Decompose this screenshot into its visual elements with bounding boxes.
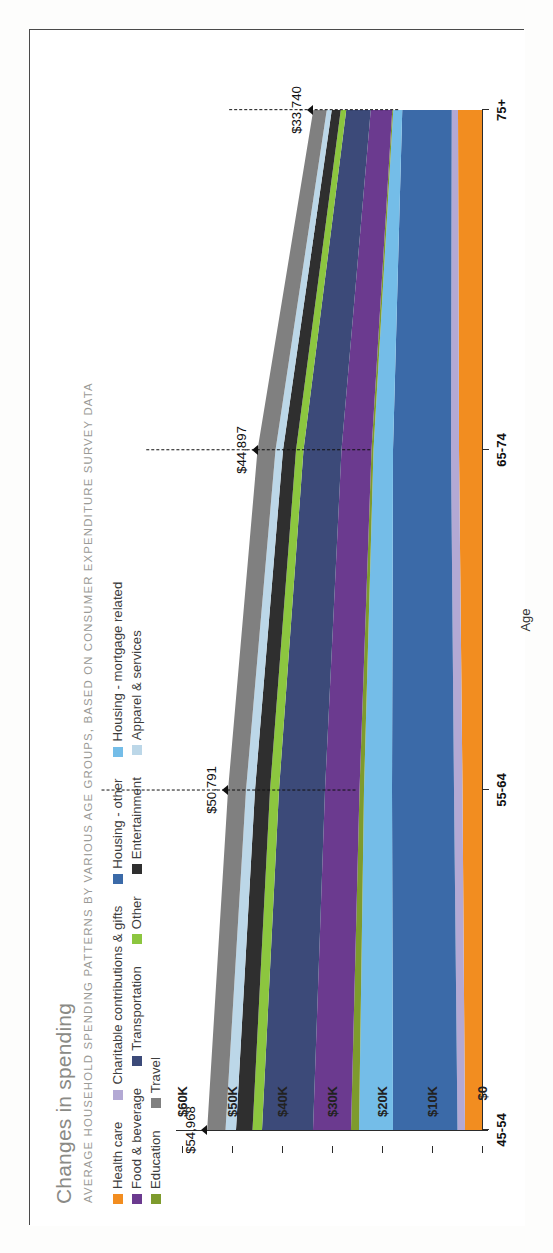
x-axis-tick-label: 55-64 (494, 773, 509, 806)
chart-frame: Changes in spending AVERAGE HOUSEHOLD SP… (29, 29, 524, 1225)
legend-item-food-beverage[interactable]: Food & beverage (129, 1088, 144, 1204)
legend-swatch-icon (132, 745, 142, 755)
legend-item-housing-mortgage-related[interactable]: Housing - mortgage related (110, 582, 125, 757)
chart-legend: Health careCharitable contributions & gi… (110, 114, 167, 1204)
legend-swatch-icon (113, 1194, 123, 1204)
y-axis-tick-mark (332, 1146, 333, 1153)
legend-row: Food & beverageTransportationOtherEntert… (129, 114, 144, 1204)
legend-item-travel[interactable]: Travel (148, 1057, 163, 1108)
total-value-label: $50,791 (204, 766, 219, 814)
x-axis-tick-mark (482, 789, 489, 790)
x-axis-line (482, 110, 483, 1131)
y-axis-tick-label: $10K (425, 1086, 440, 1117)
y-axis-tick-label: $30K (325, 1086, 340, 1117)
x-axis-title: Age (518, 608, 533, 631)
legend-swatch-icon (151, 1098, 161, 1108)
page-title: Changes in spending (52, 1003, 76, 1204)
legend-item-entertainment[interactable]: Entertainment (129, 777, 144, 874)
legend-item-label: Other (129, 896, 144, 929)
legend-item-other[interactable]: Other (129, 896, 144, 944)
legend-row: EducationTravel (148, 114, 163, 1204)
legend-item-label: Travel (148, 1057, 163, 1093)
y-axis-tick-label: $20K (375, 1086, 390, 1117)
legend-item-label: Health care (110, 1122, 125, 1189)
legend-item-label: Charitable contributions & gifts (110, 906, 125, 1085)
x-axis-tick-label: 45-54 (494, 1113, 509, 1146)
callout-leader-line (102, 790, 356, 791)
callout-arrow-icon (307, 105, 313, 115)
legend-item-housing-other[interactable]: Housing - other (110, 779, 125, 884)
y-axis-ticks: $0$10K$20K$30K$40K$50K$60K (182, 1086, 482, 1146)
legend-item-label: Apparel & services (129, 630, 144, 740)
legend-item-apparel-services[interactable]: Apparel & services (129, 630, 144, 755)
legend-swatch-icon (113, 874, 123, 884)
chart-stage: Changes in spending AVERAGE HOUSEHOLD SP… (30, 30, 525, 1226)
legend-item-charitable-contributions-gifts[interactable]: Charitable contributions & gifts (110, 906, 125, 1100)
x-axis-tick-mark (482, 449, 489, 450)
legend-item-label: Housing - other (110, 779, 125, 869)
callout-arrow-icon (222, 785, 228, 795)
legend-row: Health careCharitable contributions & gi… (110, 114, 125, 1204)
legend-swatch-icon (113, 747, 123, 757)
chart-page: Changes in spending AVERAGE HOUSEHOLD SP… (0, 0, 553, 1253)
callout-arrow-icon (252, 445, 258, 455)
y-axis-tick-mark (232, 1146, 233, 1153)
total-value-label: $44,897 (234, 426, 249, 474)
x-axis-tick-mark (482, 1129, 489, 1130)
legend-item-label: Housing - mortgage related (110, 582, 125, 742)
legend-item-label: Food & beverage (129, 1088, 144, 1189)
legend-swatch-icon (132, 934, 142, 944)
y-axis-tick-label: $40K (275, 1086, 290, 1117)
legend-swatch-icon (113, 1090, 123, 1100)
legend-item-label: Transportation (129, 966, 144, 1051)
total-value-label: $33,740 (289, 86, 304, 134)
legend-swatch-icon (132, 1194, 142, 1204)
legend-swatch-icon (132, 864, 142, 874)
legend-item-transportation[interactable]: Transportation (129, 966, 144, 1066)
x-axis-tick-label: 65-74 (494, 433, 509, 466)
y-axis-tick-mark (382, 1146, 383, 1153)
page-subtitle: AVERAGE HOUSEHOLD SPENDING PATTERNS BY V… (82, 382, 94, 1203)
legend-item-label: Education (148, 1130, 163, 1189)
y-axis-tick-label: $0 (475, 1086, 490, 1100)
x-axis-tick-label: 75+ (494, 99, 509, 121)
area-band-housing-other (392, 110, 458, 1130)
legend-swatch-icon (132, 1056, 142, 1066)
legend-swatch-icon (151, 1194, 161, 1204)
stacked-area-bands (182, 110, 482, 1130)
y-axis-tick-mark (282, 1146, 283, 1153)
x-axis-tick-mark (482, 109, 489, 110)
legend-item-education[interactable]: Education (148, 1130, 163, 1204)
total-value-label: $54,968 (183, 1106, 198, 1154)
y-axis-tick-mark (482, 1146, 483, 1153)
chart-plot-area: $0$10K$20K$30K$40K$50K$60K 45-5455-6465-… (182, 110, 482, 1130)
legend-item-health-care[interactable]: Health care (110, 1122, 125, 1204)
callout-arrow-icon (201, 1125, 207, 1135)
y-axis-tick-label: $50K (225, 1086, 240, 1117)
y-axis-tick-mark (432, 1146, 433, 1153)
